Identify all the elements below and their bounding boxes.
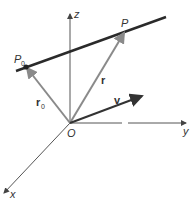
r-vector (70, 33, 124, 123)
x-axis-label: x (9, 188, 16, 200)
v-vector (70, 96, 142, 123)
r-label: r (101, 74, 106, 86)
v-label: v (114, 94, 121, 106)
line-l (16, 17, 166, 71)
origin-label: O (67, 127, 76, 139)
x-axis (4, 123, 70, 193)
line-in-space-diagram: z y x O P 0 P r 0 r v (0, 0, 193, 202)
p0-label-subscript: 0 (21, 60, 25, 67)
r0-label-subscript: 0 (41, 103, 45, 110)
z-axis-label: z (73, 8, 80, 20)
p-label: P (121, 17, 129, 29)
y-axis-label: y (182, 125, 190, 137)
r0-vector (27, 68, 70, 123)
